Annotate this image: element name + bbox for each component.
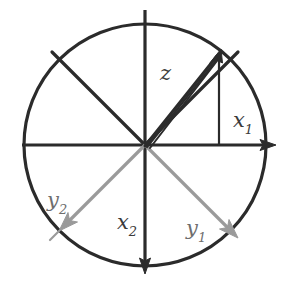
z-vector-shaft-b — [147, 57, 219, 147]
label-y1: y1 — [186, 218, 206, 241]
label-x2-sub: 2 — [129, 224, 137, 239]
label-x2: x2 — [117, 212, 137, 235]
label-z: z — [160, 63, 171, 86]
label-x1-sub: 1 — [245, 122, 253, 137]
label-y2: y2 — [47, 190, 67, 213]
y2-axis-tail — [50, 231, 59, 240]
upper-left-ray-line — [52, 52, 145, 145]
label-y1-sub: 1 — [198, 230, 206, 245]
label-x1-base: x — [233, 108, 245, 132]
label-z-base: z — [160, 61, 171, 85]
z-vector-shaft-a — [145, 56, 217, 146]
label-y1-base: y — [186, 216, 198, 240]
label-x1: x1 — [233, 110, 253, 133]
y2-axis-line — [68, 145, 145, 222]
figure-canvas: z x1 x2 y1 y2 — [0, 0, 286, 288]
label-x2-base: x — [117, 210, 129, 234]
label-y2-base: y — [47, 188, 59, 212]
label-y2-sub: 2 — [59, 202, 67, 217]
vector-diagram-svg — [0, 0, 286, 288]
